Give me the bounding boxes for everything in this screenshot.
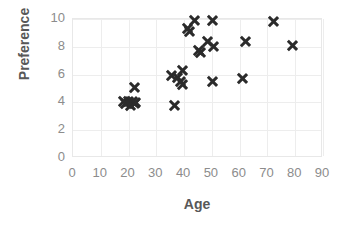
- gridline-vertical: [212, 19, 213, 156]
- x-tick-label: 70: [253, 166, 279, 179]
- data-point: [128, 81, 141, 94]
- y-tick-label: 0: [39, 150, 65, 163]
- chart-title: [0, 0, 344, 10]
- data-point: [180, 22, 193, 35]
- data-point: [239, 35, 252, 48]
- gridline-vertical: [129, 19, 130, 156]
- gridline-horizontal: [73, 47, 321, 48]
- x-tick-label: 80: [281, 166, 307, 179]
- gridline-vertical: [323, 19, 324, 156]
- gridline-horizontal: [73, 102, 321, 103]
- data-point: [267, 15, 280, 28]
- scatter-chart: 0246810 0102030405060708090 Preference A…: [0, 0, 344, 227]
- gridline-vertical: [240, 19, 241, 156]
- y-tick-label: 10: [39, 11, 65, 24]
- y-tick-label: 2: [39, 122, 65, 135]
- data-point: [286, 39, 299, 52]
- gridline-vertical: [267, 19, 268, 156]
- x-tick-label: 10: [87, 166, 113, 179]
- data-point: [165, 69, 178, 82]
- x-tick-label: 0: [59, 166, 85, 179]
- y-tick-label: 4: [39, 94, 65, 107]
- data-point: [123, 99, 136, 112]
- gridline-horizontal: [73, 19, 321, 20]
- gridline-vertical: [101, 19, 102, 156]
- data-point: [119, 97, 132, 110]
- data-point: [194, 46, 207, 59]
- gridline-vertical: [295, 19, 296, 156]
- x-tick-label: 40: [170, 166, 196, 179]
- gridline-vertical: [156, 19, 157, 156]
- x-tick-label: 60: [226, 166, 252, 179]
- gridline-horizontal: [73, 75, 321, 76]
- data-point: [171, 71, 184, 84]
- data-point: [117, 95, 130, 108]
- x-tick-label: 50: [198, 166, 224, 179]
- y-tick-label: 8: [39, 39, 65, 52]
- y-axis-title: Preference: [16, 0, 32, 104]
- data-point: [176, 78, 189, 91]
- gridline-vertical: [184, 19, 185, 156]
- data-point: [128, 97, 141, 110]
- y-tick-label: 6: [39, 67, 65, 80]
- data-point: [168, 99, 181, 112]
- x-axis-title: Age: [72, 196, 322, 212]
- gridline-horizontal: [73, 130, 321, 131]
- x-tick-label: 20: [115, 166, 141, 179]
- x-tick-label: 30: [142, 166, 168, 179]
- x-tick-label: 90: [309, 166, 335, 179]
- data-point: [187, 14, 200, 27]
- plot-area: [72, 18, 322, 157]
